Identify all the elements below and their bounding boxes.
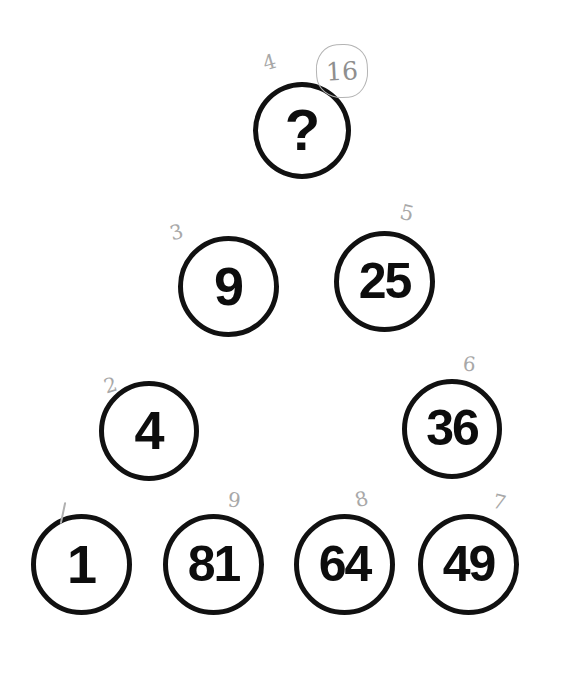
pencil-annotation-root-4: 4 — [260, 51, 278, 74]
circle-node-value: 25 — [359, 256, 411, 306]
circle-node-25[interactable]: 25 — [334, 231, 435, 332]
circle-node-value: 64 — [319, 539, 371, 589]
circle-node-1[interactable]: 1 — [31, 514, 132, 615]
pencil-boxed-answer-16: 16 — [315, 43, 370, 100]
pencil-annotation-root-2: 2 — [101, 374, 119, 397]
circle-node-value: 4 — [135, 403, 164, 457]
circle-node-value: 81 — [188, 539, 240, 589]
circle-node-49[interactable]: 49 — [418, 514, 519, 615]
worksheet-canvas: ? 4 16 9 3 25 5 4 2 36 6 1 81 9 64 8 49 … — [0, 0, 588, 681]
circle-node-value: 1 — [67, 537, 96, 591]
pencil-annotation-root-8: 8 — [352, 488, 370, 511]
pencil-boxed-answer-text: 16 — [325, 58, 358, 85]
circle-node-36[interactable]: 36 — [402, 379, 502, 479]
circle-node-64[interactable]: 64 — [294, 514, 395, 615]
circle-node-value: 36 — [426, 403, 478, 453]
pencil-annotation-root-9: 9 — [227, 489, 242, 510]
circle-node-value: ? — [285, 101, 319, 159]
circle-node-81[interactable]: 81 — [163, 514, 264, 615]
pencil-annotation-root-6: 6 — [462, 353, 477, 374]
circle-node-9[interactable]: 9 — [178, 236, 279, 337]
circle-node-value: 9 — [214, 259, 243, 313]
circle-node-value: 49 — [443, 539, 495, 589]
pencil-annotation-root-5: 5 — [398, 202, 416, 226]
pencil-annotation-root-3: 3 — [167, 221, 185, 244]
pencil-annotation-root-7: 7 — [491, 491, 508, 513]
